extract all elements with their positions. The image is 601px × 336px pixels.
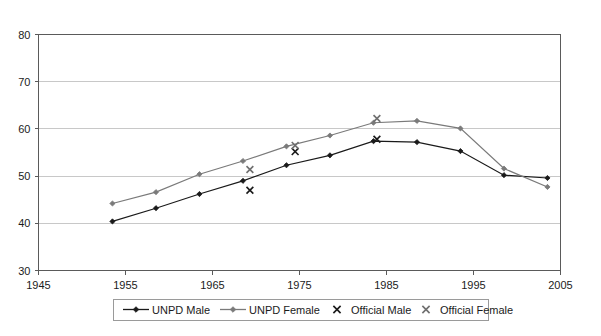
data-point-unpd-male-7 bbox=[414, 140, 419, 145]
y-axis-label-70: 70 bbox=[18, 76, 30, 88]
line-chart: 807060504030 194519551965197519851995200… bbox=[0, 0, 601, 336]
x-axis-label-1945: 1945 bbox=[26, 279, 50, 291]
data-point-unpd-male-4 bbox=[284, 163, 289, 168]
data-point-unpd-female-7 bbox=[414, 118, 419, 123]
data-series-layer bbox=[110, 115, 550, 224]
legend-label-official-male: Official Male bbox=[351, 304, 411, 316]
data-point-unpd-female-3 bbox=[240, 158, 245, 163]
x-axis-label-1965: 1965 bbox=[200, 279, 224, 291]
chart-legend: UNPD MaleUNPD FemaleOfficial MaleOfficia… bbox=[113, 299, 513, 320]
data-point-official-female-0 bbox=[247, 166, 254, 173]
series-unpd-male bbox=[110, 139, 550, 224]
data-point-official-female-2 bbox=[374, 115, 381, 122]
data-point-unpd-female-10 bbox=[545, 184, 550, 189]
series-official-male bbox=[247, 136, 381, 194]
series-unpd-female bbox=[110, 118, 550, 206]
x-axis-label-1955: 1955 bbox=[113, 279, 137, 291]
plot-area-border bbox=[39, 35, 561, 271]
x-axis-label-1995: 1995 bbox=[461, 279, 485, 291]
data-point-official-male-0 bbox=[247, 187, 254, 194]
legend-label-unpd-female: UNPD Female bbox=[249, 304, 320, 316]
y-axis-label-30: 30 bbox=[18, 265, 30, 277]
y-axis-label-60: 60 bbox=[18, 123, 30, 135]
x-axis-label-1985: 1985 bbox=[374, 279, 398, 291]
data-point-unpd-female-4 bbox=[284, 144, 289, 149]
x-axis-label-1975: 1975 bbox=[287, 279, 311, 291]
x-tick-marks-group bbox=[39, 271, 561, 275]
data-point-unpd-male-5 bbox=[327, 153, 332, 158]
y-axis-label-80: 80 bbox=[18, 29, 30, 41]
y-axis-label-40: 40 bbox=[18, 217, 30, 229]
data-point-unpd-female-5 bbox=[327, 133, 332, 138]
series-official-female bbox=[247, 115, 381, 173]
data-point-unpd-male-1 bbox=[153, 206, 158, 211]
data-point-unpd-male-9 bbox=[501, 173, 506, 178]
data-point-unpd-male-3 bbox=[240, 178, 245, 183]
x-axis-tick-labels: 1945195519651975198519952005 bbox=[26, 279, 572, 291]
data-point-unpd-male-8 bbox=[458, 148, 463, 153]
y-axis-tick-labels: 807060504030 bbox=[18, 29, 30, 277]
data-point-unpd-male-2 bbox=[197, 191, 202, 196]
y-axis-label-50: 50 bbox=[18, 170, 30, 182]
x-axis-label-2005: 2005 bbox=[548, 279, 572, 291]
legend-label-unpd-male: UNPD Male bbox=[152, 304, 210, 316]
data-point-unpd-female-1 bbox=[153, 190, 158, 195]
chart-container: 807060504030 194519551965197519851995200… bbox=[0, 0, 601, 336]
data-point-official-female-1 bbox=[292, 142, 299, 149]
legend-label-official-female: Official Female bbox=[440, 304, 513, 316]
data-point-official-male-1 bbox=[292, 148, 299, 155]
data-point-unpd-female-0 bbox=[110, 201, 115, 206]
